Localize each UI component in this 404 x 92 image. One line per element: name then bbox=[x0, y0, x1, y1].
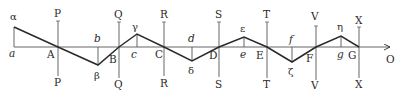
label-bottom-r: R bbox=[160, 77, 169, 89]
labels-group: αAβBγCδDεEζFηGabcdefgPPQQRRSSTTVVXXO bbox=[9, 7, 395, 91]
label-delta: δ bbox=[188, 65, 194, 76]
label-bottom-x: X bbox=[355, 78, 363, 90]
label-A: A bbox=[46, 48, 55, 60]
label-beta: β bbox=[94, 70, 100, 81]
label-foot-c: c bbox=[131, 48, 137, 60]
label-top-v: V bbox=[310, 10, 319, 22]
label-E: E bbox=[256, 49, 264, 61]
label-foot-b: b bbox=[94, 32, 101, 44]
label-G: G bbox=[348, 49, 356, 61]
label-C: C bbox=[155, 48, 163, 60]
label-bottom-p: P bbox=[54, 76, 61, 88]
label-foot-f: f bbox=[288, 33, 295, 45]
label-gamma: γ bbox=[132, 21, 138, 32]
label-bottom-v: V bbox=[310, 79, 319, 91]
label-D: D bbox=[209, 49, 217, 61]
label-bottom-q: Q bbox=[114, 78, 123, 90]
label-top-s: S bbox=[215, 8, 222, 20]
label-foot-g: g bbox=[337, 48, 344, 60]
label-foot-a: a bbox=[9, 47, 15, 59]
label-B: B bbox=[109, 53, 117, 65]
label-zeta: ζ bbox=[288, 66, 294, 77]
zigzag-geometric-diagram: αAβBγCδDεEζFηGabcdefgPPQQRRSSTTVVXXO bbox=[0, 0, 404, 92]
label-F: F bbox=[306, 52, 313, 64]
label-axis-o: O bbox=[386, 53, 395, 65]
label-foot-d: d bbox=[188, 32, 195, 44]
label-top-x: X bbox=[355, 14, 363, 26]
label-bottom-t: T bbox=[263, 78, 270, 90]
label-top-r: R bbox=[160, 8, 169, 20]
label-eta: η bbox=[337, 21, 343, 32]
label-epsilon: ε bbox=[240, 23, 245, 34]
label-foot-e: e bbox=[240, 48, 246, 60]
label-alpha: α bbox=[10, 11, 17, 22]
diagram-canvas: αAβBγCδDεEζFηGabcdefgPPQQRRSSTTVVXXO bbox=[0, 0, 404, 92]
label-top-p: P bbox=[54, 7, 61, 19]
label-bottom-s: S bbox=[215, 78, 222, 90]
label-top-t: T bbox=[263, 8, 270, 20]
label-top-q: Q bbox=[114, 8, 123, 20]
